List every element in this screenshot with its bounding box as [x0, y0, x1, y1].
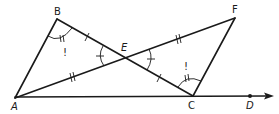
segment-fc [193, 18, 235, 96]
point-d-dot [248, 94, 252, 98]
ray-ad [15, 96, 266, 97]
label-f: F [232, 4, 238, 15]
label-c: C [188, 100, 195, 111]
angle-mark-ecf [178, 74, 201, 87]
segment-ab [15, 19, 57, 98]
geometry-diagram: ! ! A B C D E F [0, 0, 279, 114]
exclaim-c: ! [184, 61, 188, 72]
segment-af [15, 18, 235, 98]
exclaim-b: ! [63, 47, 67, 58]
label-b: B [54, 6, 61, 17]
angle-mark-bea [96, 46, 104, 66]
angle-mark-fec [147, 49, 155, 70]
label-a: A [10, 101, 18, 112]
label-d: D [246, 100, 254, 111]
label-e: E [121, 42, 128, 53]
